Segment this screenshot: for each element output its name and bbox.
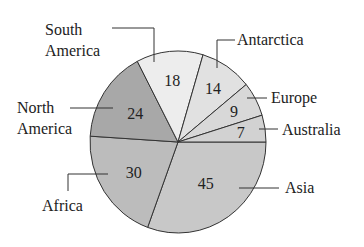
pie-chart: 453024181497 South America Antarctica Eu… [0, 0, 364, 247]
value-africa: 30 [126, 164, 142, 181]
label-north-america-1: North [17, 99, 54, 116]
label-south-america-1: South [45, 21, 82, 38]
value-australia: 7 [237, 124, 245, 141]
value-asia: 45 [198, 175, 214, 192]
value-europe: 9 [230, 103, 238, 120]
label-asia: Asia [285, 179, 314, 196]
label-africa: Africa [42, 197, 83, 214]
value-north-america: 24 [127, 105, 143, 122]
label-australia: Australia [282, 121, 341, 138]
value-south-america: 18 [164, 72, 180, 89]
label-antarctica: Antarctica [237, 31, 304, 48]
value-antarctica: 14 [205, 80, 221, 97]
label-europe: Europe [271, 89, 317, 107]
label-south-america-2: America [45, 42, 100, 59]
label-north-america-2: America [17, 120, 72, 137]
